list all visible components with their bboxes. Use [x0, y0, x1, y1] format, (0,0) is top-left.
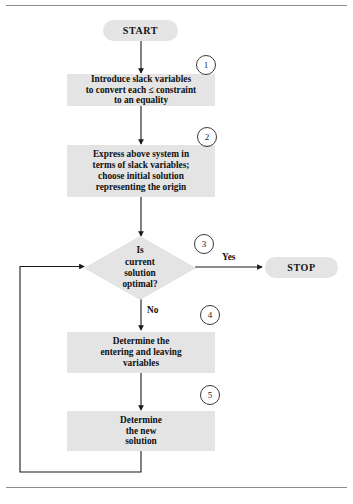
marker-5-label: 5: [208, 390, 213, 400]
node-step2-line-1: Express above system in: [71, 149, 211, 160]
node-step5-lines: Determine the new solution: [71, 415, 211, 448]
edge-label-yes: Yes: [222, 252, 235, 262]
marker-4: 4: [200, 305, 220, 325]
node-start-label: START: [123, 25, 158, 37]
node-decision-lines: Is current solution optimal?: [84, 236, 196, 300]
marker-4-label: 4: [208, 310, 213, 320]
node-step4-lines: Determine the entering and leaving varia…: [71, 336, 211, 369]
node-decision-line-1: Is: [122, 245, 157, 256]
node-step2-line-3: choose initial solution: [71, 171, 211, 182]
node-step5-line-2: the new: [71, 426, 211, 437]
node-step4-line-2: entering and leaving: [71, 347, 211, 358]
marker-3-label: 3: [202, 239, 207, 249]
node-step1-lines: Introduce slack variables to convert eac…: [71, 74, 211, 107]
marker-1: 1: [196, 55, 216, 75]
node-step4-line-3: variables: [71, 358, 211, 369]
marker-2: 2: [197, 127, 217, 147]
node-step5-line-1: Determine: [71, 415, 211, 426]
node-decision-line-3: solution: [122, 268, 157, 279]
edge-label-no: No: [147, 305, 158, 315]
node-step1: Introduce slack variables to convert eac…: [67, 74, 215, 106]
flowchart-figure: START Introduce slack variables to conve…: [0, 0, 353, 504]
node-step5: Determine the new solution: [67, 411, 215, 451]
marker-3: 3: [194, 234, 214, 254]
node-decision-line-2: current: [122, 257, 157, 268]
node-decision: Is current solution optimal?: [84, 236, 196, 300]
node-step1-line-1: Introduce slack variables: [71, 74, 211, 85]
node-step1-line-3: to an equality: [71, 95, 211, 106]
marker-1-label: 1: [204, 60, 209, 70]
node-step2-line-2: terms of slack variables;: [71, 160, 211, 171]
node-step5-line-3: solution: [71, 436, 211, 447]
node-step2-line-4: representing the origin: [71, 182, 211, 193]
node-step1-line-2: to convert each ≤ constraint: [71, 85, 211, 96]
node-stop-label: STOP: [287, 262, 315, 274]
node-step2-lines: Express above system in terms of slack v…: [71, 149, 211, 193]
node-step4: Determine the entering and leaving varia…: [67, 332, 215, 373]
node-start: START: [103, 20, 178, 41]
node-step4-line-1: Determine the: [71, 336, 211, 347]
marker-2-label: 2: [205, 132, 210, 142]
marker-5: 5: [200, 385, 220, 405]
node-stop: STOP: [265, 257, 338, 278]
node-step2: Express above system in terms of slack v…: [67, 145, 215, 197]
node-decision-line-4: optimal?: [122, 279, 157, 290]
